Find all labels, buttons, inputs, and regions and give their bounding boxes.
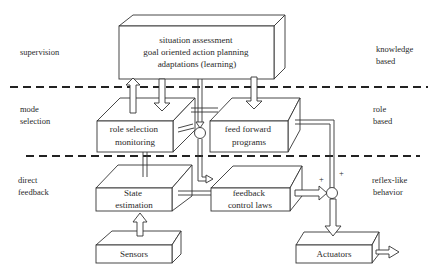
layer-label-direct-feedback: direct feedback [18, 175, 49, 197]
supervisor-text: situation assessment goal oriented actio… [143, 35, 250, 69]
plus-sign-left: + [319, 174, 324, 184]
block-supervisor: situation assessment goal oriented actio… [119, 15, 285, 79]
layer-label-role-based: role based [373, 104, 393, 126]
sensors-text: Sensors [120, 249, 148, 259]
layer-label-knowledge-based: knowledge based [376, 44, 415, 66]
actuators-text: Actuators [317, 249, 352, 259]
layer-label-mode-selection: mode selection [20, 104, 51, 126]
control-hierarchy-diagram: supervision mode selection direct feedba… [0, 0, 436, 274]
block-state-estimation: State estimation [96, 165, 192, 211]
summing-junction-output [327, 188, 338, 199]
layer-label-supervision: supervision [20, 47, 60, 57]
block-actuators: Actuators [296, 232, 379, 263]
layer-label-reflex-like-behavior: reflex-like behavior [372, 175, 410, 197]
arrow-summing-to-actuators [325, 199, 341, 236]
summing-junction-upper [195, 128, 206, 139]
block-feedback-control-laws: feedback control laws [211, 166, 302, 211]
block-role-selection: role selection monitoring [97, 98, 195, 152]
plus-sign-top: + [339, 168, 344, 178]
